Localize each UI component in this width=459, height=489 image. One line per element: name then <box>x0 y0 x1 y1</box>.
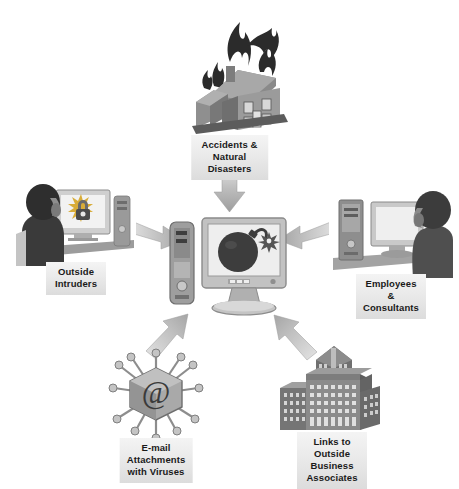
central-computer-node <box>166 200 294 322</box>
threat-node-email: @ E-mail Attachments with Viruses <box>96 348 216 473</box>
office-buildings-icon <box>262 340 402 438</box>
hacker-at-computer-icon <box>16 174 136 266</box>
employee-at-computer-icon <box>329 186 453 278</box>
threat-node-intruders: Outside Intruders <box>16 174 136 284</box>
threat-label-links: Links to Outside Business Associates <box>297 432 367 489</box>
burning-house-icon <box>152 16 307 134</box>
threat-node-links: Links to Outside Business Associates <box>262 340 402 472</box>
threat-label-intruders: Outside Intruders <box>46 262 106 295</box>
threat-label-employees: Employees & Consultants <box>356 274 426 319</box>
computer-with-bomb-icon <box>166 200 294 322</box>
threat-node-employees: Employees & Consultants <box>329 186 453 306</box>
threat-node-accidents: Accidents & Natural Disasters <box>152 16 307 166</box>
threat-label-email: E-mail Attachments with Viruses <box>120 438 193 483</box>
threat-label-accidents: Accidents & Natural Disasters <box>191 135 269 180</box>
svg-text:@: @ <box>142 375 171 410</box>
email-virus-icon: @ <box>96 348 216 444</box>
